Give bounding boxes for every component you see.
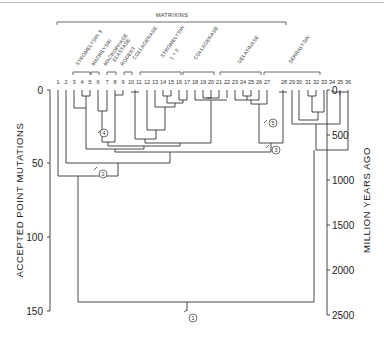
leaf-19: 19	[200, 79, 206, 85]
leaf-9: 9	[121, 79, 124, 85]
node-marker-3: 3	[266, 145, 280, 154]
leaf-12: 12	[144, 79, 150, 85]
leaf-5: 5	[88, 79, 91, 85]
leaf-35: 35	[337, 79, 343, 85]
leaf-17: 17	[184, 79, 190, 85]
leaf-29: 29	[289, 79, 295, 85]
leaf-4: 4	[80, 79, 83, 85]
leaf-6: 6	[96, 79, 99, 85]
group-label-gelatinase: GELATINASE	[236, 34, 260, 65]
dendrogram-figure: MATRIXINS STROMELYSIN 3 MATRILYSIN MACRO…	[0, 0, 384, 338]
group-label-collagenase-rodent: COLLAGENASE	[131, 24, 159, 60]
right-tick-1500: 1500	[332, 220, 355, 231]
leaf-22: 22	[224, 79, 230, 85]
leaf-30: 30	[296, 79, 302, 85]
leaf-14: 14	[160, 79, 166, 85]
leaf-24: 24	[240, 79, 246, 85]
group-label-serralysin: SERRALYSIN	[287, 34, 311, 65]
leaf-13: 13	[152, 79, 158, 85]
matrixins-label: MATRIXINS	[156, 12, 188, 18]
leaf-28: 28	[281, 79, 287, 85]
right-tick-1000: 1000	[332, 175, 355, 186]
node-number-5: 5	[271, 120, 274, 126]
leaf-21: 21	[216, 79, 222, 85]
right-tick-2500: 2500	[332, 310, 355, 321]
group-label-collagenase: COLLAGENASE	[192, 24, 220, 60]
right-tick-500: 500	[332, 130, 349, 141]
right-tick-2000: 2000	[332, 265, 355, 276]
left-tick-100: 100	[26, 232, 43, 243]
leaf-16: 16	[176, 79, 182, 85]
leaf-20: 20	[208, 79, 214, 85]
leaf-8: 8	[113, 79, 116, 85]
node-marker-4: 4	[98, 129, 108, 137]
node-number-4: 4	[102, 130, 105, 136]
leaf-23: 23	[232, 79, 238, 85]
left-axis	[47, 90, 50, 311]
left-tick-150: 150	[26, 306, 43, 317]
node-number-3: 3	[274, 147, 277, 153]
node-marker-1: 1	[184, 310, 197, 322]
leaf-33: 33	[321, 79, 327, 85]
left-tick-50: 50	[32, 158, 44, 169]
node-marker-5: 5	[264, 119, 277, 127]
dendrogram-branches	[58, 90, 348, 311]
right-axis-title: MILLION YEARS AGO	[361, 147, 372, 253]
leaf-1: 1	[56, 79, 59, 85]
leaf-18: 18	[192, 79, 198, 85]
leaf-10: 10	[128, 79, 134, 85]
right-tick-0: 0	[332, 85, 338, 96]
leaf-11: 11	[136, 79, 142, 85]
leaf-36: 36	[345, 79, 351, 85]
leaf-32: 32	[313, 79, 319, 85]
node-number-1: 1	[191, 315, 194, 321]
leaf-31: 31	[305, 79, 311, 85]
leaf-25: 25	[248, 79, 254, 85]
leaf-15: 15	[168, 79, 174, 85]
left-axis-title: ACCEPTED POINT MUTATIONS	[14, 123, 25, 278]
leaf-2: 2	[64, 79, 67, 85]
group-brackets	[73, 72, 320, 75]
leaf-3: 3	[72, 79, 75, 85]
leaf-7: 7	[105, 79, 108, 85]
node-number-2: 2	[101, 171, 104, 177]
leaf-numbers: 1 2 3 4 5 6 7 8 9 10 11 12 13 14 15 16 1…	[56, 79, 351, 85]
matrixins-bracket	[57, 22, 286, 25]
leaf-26: 26	[256, 79, 262, 85]
leaf-27: 27	[264, 79, 270, 85]
left-tick-0: 0	[37, 85, 43, 96]
